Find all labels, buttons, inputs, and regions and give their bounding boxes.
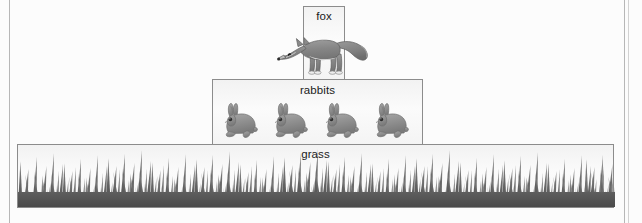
level-label-rabbits: rabbits: [213, 84, 422, 97]
level-label-grass: grass: [18, 148, 613, 161]
rabbit-icon: [220, 100, 264, 144]
trophic-level-grass: grass: [17, 144, 614, 208]
page-rule-right: [624, 0, 625, 223]
page-rule-right-secondary: [628, 0, 629, 223]
trophic-level-rabbits: rabbits: [212, 79, 423, 145]
level-label-fox: fox: [304, 10, 344, 23]
page-rule-left: [9, 0, 10, 223]
rabbit-icon: [371, 100, 415, 144]
rabbit-icon: [270, 100, 314, 144]
energy-pyramid-diagram: grass rabbits: [0, 0, 642, 223]
rabbit-group: [213, 98, 422, 144]
fox-icon: [276, 26, 372, 83]
rabbit-icon: [321, 100, 365, 144]
